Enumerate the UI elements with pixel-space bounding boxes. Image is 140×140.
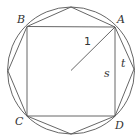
vertex-label-b: B [16, 13, 25, 26]
radius-line [71, 27, 115, 71]
vertex-label-c: C [15, 115, 24, 128]
vertex-label-d: D [114, 119, 124, 132]
vertex-label-a: A [116, 13, 125, 26]
square-side-label: s [104, 67, 110, 80]
diagram-canvas: A B C D 1 s t [0, 0, 140, 140]
geometry-diagram: A B C D 1 s t [0, 0, 140, 140]
radius-label: 1 [84, 35, 91, 48]
octagon-side-label: t [121, 57, 126, 70]
